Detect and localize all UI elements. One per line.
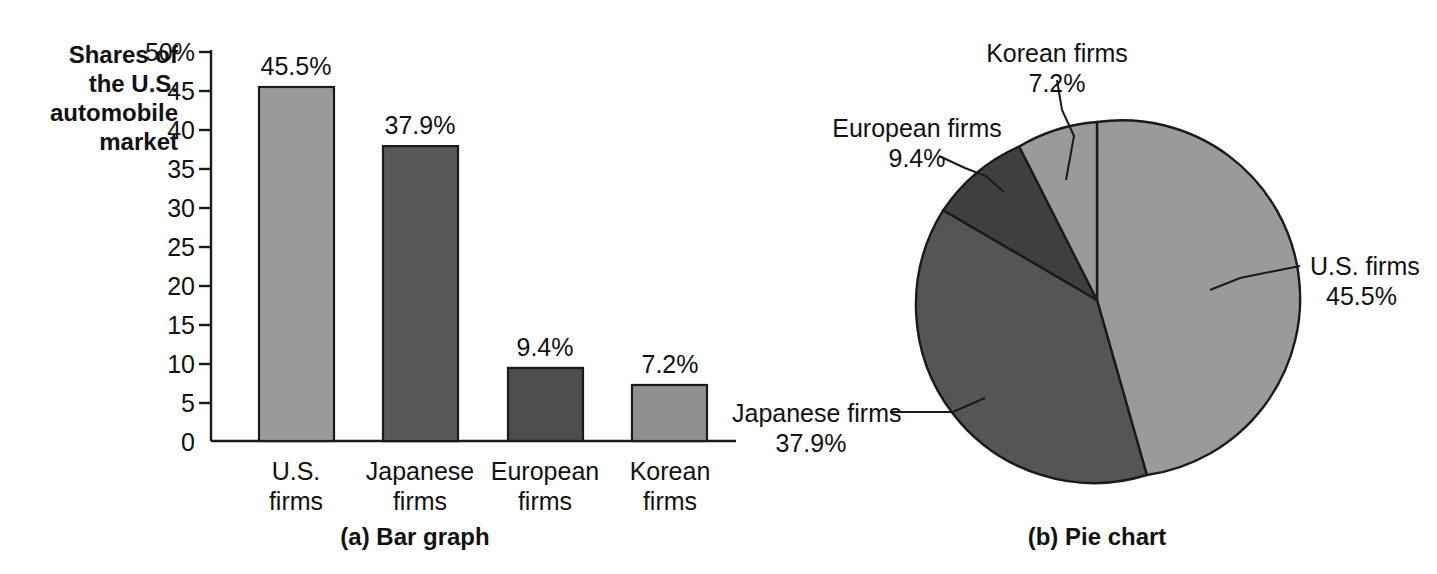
bar-value-label-us: 45.5% <box>216 52 376 82</box>
bar-european-firms <box>508 368 583 441</box>
pie-callout-korean-value: 7.2% <box>957 68 1157 99</box>
panel-bar-graph: Shares of the U.S. automobile market 50%… <box>0 0 740 574</box>
bar-value-label-japanese: 37.9% <box>340 111 500 141</box>
pie-callout-european-name: European firms <box>817 113 1017 144</box>
figure-two-panel-chart: Shares of the U.S. automobile market 50%… <box>0 0 1437 574</box>
y-axis-tick-marks <box>199 52 211 403</box>
bar-korean-firms <box>632 385 707 441</box>
panel-a-caption: (a) Bar graph <box>255 523 575 551</box>
x-category-label-korean-line2: firms <box>580 486 760 516</box>
bar-japanese-firms <box>383 146 458 441</box>
pie-callout-us-name: U.S. firms <box>1310 251 1420 282</box>
bar-value-label-korean: 7.2% <box>590 350 750 380</box>
x-category-label-korean-line1: Korean <box>580 456 760 486</box>
panel-b-caption: (b) Pie chart <box>937 523 1257 551</box>
pie-callout-european-value: 9.4% <box>817 143 1017 174</box>
pie-callout-korean-name: Korean firms <box>957 38 1157 69</box>
pie-callout-us-value: 45.5% <box>1326 281 1397 312</box>
pie-callout-japanese-name: Japanese firms <box>732 398 902 429</box>
pie-callout-japanese-value: 37.9% <box>732 428 890 459</box>
panel-pie-chart: Korean firms 7.2% European firms 9.4% U.… <box>740 0 1437 574</box>
bar-us-firms <box>259 87 334 441</box>
